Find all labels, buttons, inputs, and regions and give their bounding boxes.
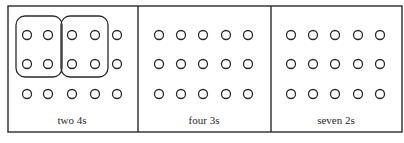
panel-label: seven 2s	[317, 114, 355, 126]
dot	[113, 90, 122, 99]
dot	[331, 31, 340, 40]
dot-grid	[155, 31, 253, 99]
dot	[91, 90, 100, 99]
dot	[68, 90, 77, 99]
dot	[244, 90, 253, 99]
dot	[44, 90, 53, 99]
dot	[155, 60, 164, 69]
dot	[199, 90, 208, 99]
dot	[68, 60, 77, 69]
dot	[177, 31, 186, 40]
dot-grid	[23, 31, 122, 99]
dot	[309, 90, 318, 99]
dot	[222, 31, 231, 40]
dot	[44, 60, 53, 69]
dot	[155, 31, 164, 40]
dot	[23, 60, 32, 69]
dot	[113, 60, 122, 69]
dot	[376, 90, 385, 99]
dot	[68, 31, 77, 40]
dot	[287, 90, 296, 99]
dot	[309, 31, 318, 40]
group-2-outline	[61, 16, 108, 77]
dot	[287, 31, 296, 40]
dot	[91, 31, 100, 40]
dot	[23, 90, 32, 99]
dot	[354, 90, 363, 99]
dot	[244, 31, 253, 40]
dot	[287, 60, 296, 69]
panel-label: two 4s	[57, 114, 86, 126]
dot	[177, 90, 186, 99]
group-1-outline	[16, 16, 62, 77]
panel-two-4s: two 4s	[16, 16, 122, 126]
dot	[244, 60, 253, 69]
dot	[354, 31, 363, 40]
dot	[155, 90, 164, 99]
dot	[222, 60, 231, 69]
dot	[222, 90, 231, 99]
dot	[177, 60, 186, 69]
panel-seven-2s: seven 2s	[287, 31, 385, 127]
dot-grid	[287, 31, 385, 99]
grouping-diagram: two 4s four 3s seven 2s	[0, 0, 404, 143]
dot	[113, 31, 122, 40]
panel-label: four 3s	[189, 114, 220, 126]
dot	[331, 90, 340, 99]
dot	[376, 31, 385, 40]
dot	[91, 60, 100, 69]
dot	[199, 31, 208, 40]
panel-four-3s: four 3s	[155, 31, 253, 127]
dot	[309, 60, 318, 69]
dot	[44, 31, 53, 40]
dot	[354, 60, 363, 69]
dot	[331, 60, 340, 69]
dot	[23, 31, 32, 40]
dot	[199, 60, 208, 69]
dot	[376, 60, 385, 69]
